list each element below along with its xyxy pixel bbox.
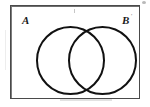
set-b-circle [68, 26, 137, 95]
set-a-label: A [22, 15, 29, 26]
set-b-label-mark: ' [131, 12, 132, 20]
set-b-label: B [122, 15, 129, 26]
scan-artifact-bottom-band-icon [60, 99, 112, 101]
venn-diagram-figure: A B ' [0, 0, 150, 107]
universal-set-rectangle [10, 5, 140, 99]
scan-artifact-left-edge-icon [5, 30, 6, 70]
scan-artifact-top-right-icon [142, 1, 146, 4]
